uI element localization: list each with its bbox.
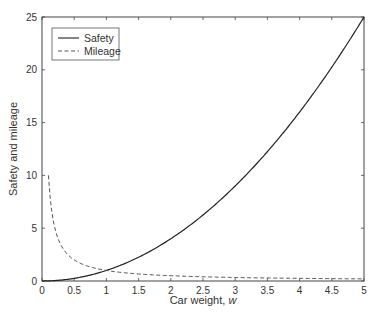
y-tick-label: 0	[31, 276, 37, 287]
x-tick-label: 5	[361, 285, 367, 296]
y-tick-label: 10	[26, 170, 38, 181]
x-tick-label: 1.5	[132, 285, 146, 296]
chart: 00.511.522.533.544.55 0510152025 Safety …	[0, 0, 380, 327]
y-axis-label: Safety and mileage	[7, 102, 19, 196]
y-tick-label: 15	[26, 117, 38, 128]
x-tick-label: 0.5	[67, 285, 81, 296]
x-tick-label: 4	[297, 285, 303, 296]
legend-mileage-label: Mileage	[84, 45, 121, 57]
legend: Safety Mileage	[52, 28, 121, 60]
y-tick-label: 25	[26, 12, 38, 23]
series-mileage-line	[48, 175, 364, 278]
x-tick-label: 4.5	[325, 285, 339, 296]
legend-safety-label: Safety	[84, 32, 115, 44]
y-tick-label: 20	[26, 64, 38, 75]
x-axis-label: Car weight, w	[170, 294, 238, 306]
x-tick-label: 1	[104, 285, 110, 296]
y-tick-label: 5	[31, 223, 37, 234]
x-tick-label: 3.5	[260, 285, 274, 296]
x-tick-label: 0	[39, 285, 45, 296]
